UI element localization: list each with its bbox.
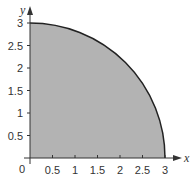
y-tick-label: 1.5 [8, 85, 23, 97]
y-axis-arrow-icon [27, 6, 33, 15]
x-tick-label: 3 [162, 164, 168, 176]
shaded-region [30, 23, 165, 158]
y-axis-label: y [19, 3, 26, 17]
x-tick-label: 2 [117, 164, 123, 176]
x-tick-label: 0.5 [45, 164, 60, 176]
y-tick-label: 3 [17, 17, 23, 29]
origin-label: 0 [19, 163, 25, 175]
x-tick-label: 1.5 [90, 164, 105, 176]
y-tick-label: 2.5 [8, 40, 23, 52]
y-tick-label: 1 [17, 107, 23, 119]
x-axis-label: x [183, 151, 190, 165]
y-tick-label: 2 [17, 62, 23, 74]
x-axis-arrow-icon [173, 155, 182, 161]
y-tick-label: 0.5 [8, 130, 23, 142]
x-tick-label: 2.5 [135, 164, 150, 176]
x-tick-label: 1 [72, 164, 78, 176]
quarter-circle-chart: 0.5 1 1.5 2 2.5 3 0.5 1 1.5 2 2.5 3 0 x … [0, 0, 190, 180]
